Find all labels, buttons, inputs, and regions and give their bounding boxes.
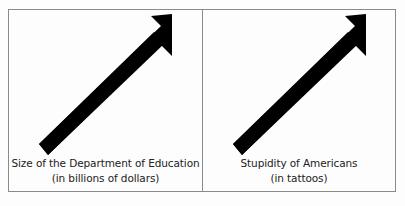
- panel-subtitle: (in billions of dollars): [9, 171, 202, 186]
- panel-title: Stupidity of Americans: [203, 156, 395, 171]
- panel-department-of-education: Size of the Department of Education (in …: [9, 10, 202, 191]
- panel-stupidity-of-americans: Stupidity of Americans (in tattoos): [203, 10, 395, 191]
- panel-caption: Size of the Department of Education (in …: [9, 156, 202, 186]
- panel-title: Size of the Department of Education: [9, 156, 202, 171]
- panel-subtitle: (in tattoos): [203, 171, 395, 186]
- panel-caption: Stupidity of Americans (in tattoos): [203, 156, 395, 186]
